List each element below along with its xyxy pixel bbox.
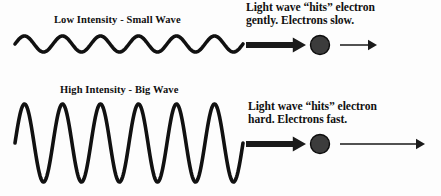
high-intensity-electron-icon bbox=[311, 135, 330, 154]
high-intensity-wave bbox=[15, 104, 243, 182]
diagram-vector-layer bbox=[0, 0, 441, 196]
high-intensity-light-arrow-icon bbox=[246, 137, 306, 152]
photoelectric-intensity-diagram: Low Intensity - Small Wave Light wave “h… bbox=[0, 0, 441, 196]
low-intensity-electron-motion-arrow-icon bbox=[340, 40, 377, 50]
low-intensity-panel-art bbox=[15, 36, 377, 55]
low-intensity-wave bbox=[15, 36, 243, 52]
low-intensity-light-arrow-icon bbox=[246, 38, 306, 53]
high-intensity-electron-motion-arrow-icon bbox=[340, 139, 425, 149]
low-intensity-electron-icon bbox=[311, 36, 330, 55]
high-intensity-panel-art bbox=[15, 104, 425, 182]
